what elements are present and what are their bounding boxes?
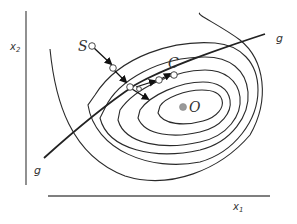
y-axis-label-sub: 2: [16, 46, 21, 54]
unconstrained-optimum-point: [180, 104, 187, 111]
diagram-canvas: S C O g g x2 x1: [0, 0, 297, 224]
optimization-diagram: S C O g g x2 x1: [0, 0, 297, 224]
label-start: S: [78, 38, 88, 54]
label-g-end: g: [276, 32, 283, 45]
iterate-point-1: [110, 65, 117, 72]
iterate-point-4: [156, 77, 163, 84]
x-axis-label-sub: 1: [239, 206, 243, 214]
label-optimum: O: [189, 99, 201, 115]
step-arrow-1: [93, 47, 111, 64]
label-g-start: g: [34, 164, 41, 177]
iterate-point-3: [137, 87, 142, 92]
y-axis-label: x2: [9, 41, 21, 54]
iterate-point-2: [127, 84, 134, 91]
label-constrained-optimum: C: [168, 55, 179, 71]
constrained-optimum-point: [171, 72, 178, 79]
start-point: [89, 43, 96, 50]
x-axis-label: x1: [232, 201, 243, 214]
